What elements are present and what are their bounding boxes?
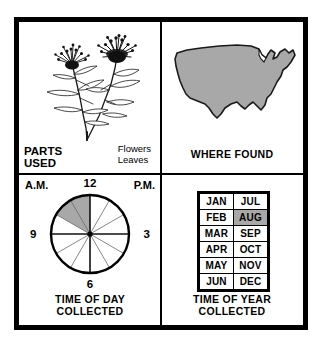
month-cell-aug[interactable]: AUG [234, 209, 268, 225]
clock-dial-12-segments [48, 192, 132, 276]
months-row: MAY NOV [200, 257, 268, 273]
month-cell-may[interactable]: MAY [200, 257, 234, 273]
parts-used-label: PARTS USED [24, 145, 62, 170]
month-cell-jun[interactable]: JUN [200, 273, 234, 289]
horizontal-divider [19, 173, 303, 175]
month-cell-apr[interactable]: APR [200, 241, 234, 257]
month-cell-jul[interactable]: JUL [234, 193, 268, 209]
united-states-map [167, 36, 299, 128]
month-cell-oct[interactable]: OCT [234, 241, 268, 257]
month-cell-nov[interactable]: NOV [234, 257, 268, 273]
where-found-caption: WHERE FOUND [161, 148, 303, 160]
clock-numeral-12: 12 [19, 177, 161, 189]
month-cell-sep[interactable]: SEP [234, 225, 268, 241]
time-of-day-caption: TIME OF DAY COLLECTED [19, 293, 161, 317]
month-cell-jan[interactable]: JAN [200, 193, 234, 209]
time-of-year-caption: TIME OF YEAR COLLECTED [161, 293, 303, 317]
clock-numeral-3: 3 [144, 228, 150, 240]
months-grid: JAN JUL FEB AUG MAR SEP [197, 191, 270, 292]
figure-frame: PARTS USED Flowers Leaves WHERE FOUND A.… [14, 17, 308, 330]
parts-used-items: Flowers Leaves [118, 143, 151, 166]
clock-numeral-6: 6 [19, 278, 161, 290]
months-row: MAR SEP [200, 225, 268, 241]
clock-numeral-9: 9 [30, 228, 36, 240]
month-cell-dec[interactable]: DEC [234, 273, 268, 289]
month-cell-feb[interactable]: FEB [200, 209, 234, 225]
months-row: JUN DEC [200, 273, 268, 289]
panel-where-found: WHERE FOUND [161, 22, 303, 174]
panel-time-of-year: JAN JUL FEB AUG MAR SEP [161, 174, 303, 326]
month-cell-mar[interactable]: MAR [200, 225, 234, 241]
months-row: APR OCT [200, 241, 268, 257]
panel-parts-used: PARTS USED Flowers Leaves [19, 22, 161, 174]
flowering-plant-illustration [23, 24, 161, 142]
panel-time-of-day: A.M. P.M. 12 3 6 9 [19, 174, 161, 326]
herb-reference-figure: PARTS USED Flowers Leaves WHERE FOUND A.… [0, 0, 324, 347]
months-row: FEB AUG [200, 209, 268, 225]
quadrant-grid: PARTS USED Flowers Leaves WHERE FOUND A.… [19, 22, 303, 325]
months-row: JAN JUL [200, 193, 268, 209]
